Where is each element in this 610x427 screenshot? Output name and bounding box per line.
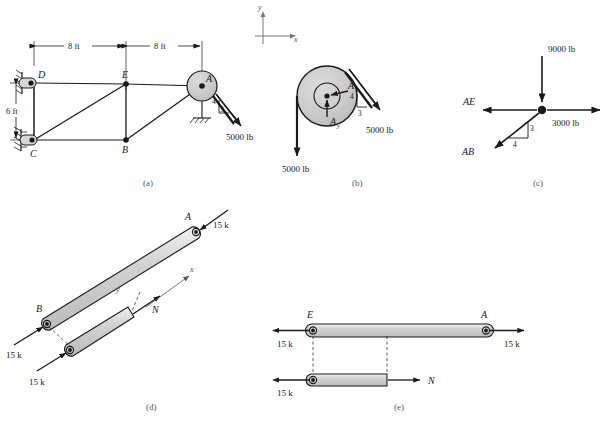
figure-d-load-label-top: 15 k xyxy=(213,220,229,230)
engineering-figure-svg: y x 8 ft 8 ft 6 ft xyxy=(0,0,610,427)
figure-c-load-label-9000: 9000 lb xyxy=(548,44,576,54)
figure-c-member-ae: AE xyxy=(462,96,537,110)
figure-a-joint-b-node xyxy=(123,137,129,143)
figure-d-local-axis-label-x: x xyxy=(189,265,194,274)
figure-e-caption: (e) xyxy=(394,402,404,412)
figure-c-load-9000: 9000 lb xyxy=(542,44,576,102)
figure-d-caption: (d) xyxy=(146,402,157,412)
figure-c-member-ab: AB xyxy=(461,113,539,157)
figure-d-load-label-bottom: 15 k xyxy=(29,377,45,387)
figure-b-reaction-sub-ay: y xyxy=(336,122,340,129)
figure-e-load-label-upper-right: 15 k xyxy=(504,339,520,349)
figure-a-joint-e-node xyxy=(123,81,129,87)
figure-d-local-axis-label-y: y xyxy=(115,285,120,294)
figure-b-reaction-label-ay: A xyxy=(329,116,337,127)
figure-d-joint-label-a: A xyxy=(184,211,192,222)
figure-a-joint-label-c: C xyxy=(30,148,37,159)
figure-c: 9000 lb 3000 lb AE AB 3 4 (c) xyxy=(461,44,600,188)
figure-e-member-ea: E A xyxy=(306,309,494,337)
figure-a-joint-label-e: E xyxy=(121,69,128,80)
figure-e-load-label-upper-left: 15 k xyxy=(277,339,293,349)
figure-d-load-mid: 15 k xyxy=(6,327,43,360)
global-axes-indicator: y x xyxy=(255,3,298,44)
figure-a-dim-label-6ft: 6 ft xyxy=(6,106,18,116)
figure-e-joint-label-a: A xyxy=(480,309,488,320)
figure-a-joint-label-d: D xyxy=(37,69,46,80)
figure-e-internal-force-label-n: N xyxy=(427,375,436,386)
figure-sheet: y x 8 ft 8 ft 6 ft xyxy=(0,0,610,427)
figure-a-dim-label-8ft-left: 8 ft xyxy=(68,41,80,51)
figure-b-slope-vertical: 4 xyxy=(350,92,354,101)
figure-b-caption: (b) xyxy=(352,178,363,188)
figure-c-load-3000: 3000 lb xyxy=(547,110,600,128)
figure-d-load-bottom: 15 k xyxy=(29,353,66,387)
figure-b-load-label-left: 5000 lb xyxy=(282,164,310,174)
figure-c-member-label-ab: AB xyxy=(461,146,474,157)
figure-b-reaction-label-ax: A xyxy=(347,80,355,91)
figure-e-load-upper-right: 15 k xyxy=(490,331,524,350)
figure-a-caption: (a) xyxy=(143,178,153,188)
figure-a-joint-label-a: A xyxy=(205,73,213,84)
figure-b-slope-horizontal: 3 xyxy=(358,109,362,118)
figure-a-load-label: 5000 lb xyxy=(226,132,254,142)
figure-a-dim-label-8ft-right: 8 ft xyxy=(154,41,166,51)
figure-a-slope-horizontal: 3 xyxy=(220,105,224,114)
figure-c-slope-vertical: 3 xyxy=(530,124,534,133)
figure-c-joint-node xyxy=(538,106,546,114)
figure-a-members xyxy=(34,83,202,140)
global-axes-y-label: y xyxy=(257,3,262,12)
figure-a-joint-label-b: B xyxy=(122,144,128,155)
figure-d-load-label-mid: 15 k xyxy=(6,350,22,360)
figure-e-internal-force-n: N xyxy=(388,375,436,386)
figure-e-load-label-lower-left: 15 k xyxy=(277,388,293,398)
figure-e-section-lines xyxy=(313,336,387,374)
figure-e-load-lower-left: 15 k xyxy=(272,378,310,399)
figure-c-member-label-ae: AE xyxy=(462,96,475,107)
figure-d: A B 15 k 15 k 15 k xyxy=(6,210,229,412)
global-axes-x-label: x xyxy=(293,35,298,44)
figure-e-load-upper-left: 15 k xyxy=(272,328,310,349)
figure-d-load-top: 15 k xyxy=(200,210,229,230)
figure-e: E A 15 k 15 k 15 k xyxy=(272,309,524,412)
figure-c-caption: (c) xyxy=(533,178,543,188)
figure-c-slope-horizontal: 4 xyxy=(513,140,517,149)
figure-b: 5000 lb 5000 lb 4 3 A x A y (b) xyxy=(282,66,394,188)
figure-d-internal-force-label-n: N xyxy=(151,304,160,315)
figure-d-member-ab: A B xyxy=(36,211,200,330)
figure-b-load-label-right: 5000 lb xyxy=(366,125,394,135)
figure-a-support-d: D xyxy=(16,69,46,94)
figure-e-joint-label-e: E xyxy=(306,309,313,320)
figure-c-load-label-3000: 3000 lb xyxy=(552,118,580,128)
figure-a: 8 ft 8 ft 6 ft xyxy=(5,40,254,188)
figure-b-reaction-sub-ax: x xyxy=(354,86,358,93)
figure-e-cut-segment xyxy=(306,374,387,386)
figure-a-slope-vertical: 4 xyxy=(212,97,216,106)
figure-a-joints: E B xyxy=(121,69,129,155)
figure-d-joint-label-b: B xyxy=(36,303,42,314)
